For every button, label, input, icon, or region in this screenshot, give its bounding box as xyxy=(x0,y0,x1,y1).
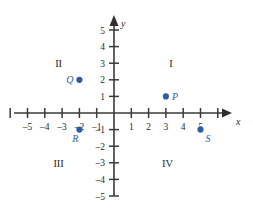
x-axis-tick-label: 2 xyxy=(146,122,151,132)
x-axis-tick-label: –4 xyxy=(39,122,50,132)
y-axis-tick-label: 1 xyxy=(100,92,105,102)
x-axis-tick-label: 4 xyxy=(181,122,186,132)
y-axis-arrow-icon xyxy=(110,15,119,26)
x-axis-tick-label: –3 xyxy=(56,122,67,132)
x-axis-tick-label: –5 xyxy=(22,122,33,132)
y-axis-tick-label: –5 xyxy=(95,192,106,202)
quadrant-label-iii: III xyxy=(53,158,64,169)
coordinate-plane-figure: –5–4–3–2–112345 54321–1–2–3–4–5 IIIIIIIV… xyxy=(0,0,253,220)
x-axis-arrow-icon xyxy=(222,109,232,118)
y-axis-label: y xyxy=(120,18,126,29)
x-axis-label: x xyxy=(235,116,241,127)
data-point-p xyxy=(163,93,169,99)
data-point-label-p: P xyxy=(171,91,178,102)
data-point-label-q: Q xyxy=(66,74,74,85)
data-point-q xyxy=(76,77,82,83)
y-axis-tick-label: 4 xyxy=(100,42,105,52)
x-axis-tick-label: 3 xyxy=(164,122,169,132)
data-points-group: PQRS xyxy=(66,74,210,143)
quadrant-label-ii: II xyxy=(55,58,62,69)
quadrant-label-i: I xyxy=(169,58,173,69)
x-axis-tick-label: 1 xyxy=(129,122,134,132)
y-axis-tick-label: 2 xyxy=(100,75,105,85)
x-axis-tick-labels-group: –5–4–3–2–112345 xyxy=(22,122,203,132)
y-axis-tick-label: –3 xyxy=(95,158,106,168)
data-point-label-s: S xyxy=(206,133,211,144)
data-point-label-r: R xyxy=(71,133,78,144)
axes-group xyxy=(14,15,232,196)
y-axis-tick-label: –4 xyxy=(95,175,106,185)
data-point-s xyxy=(197,127,203,133)
y-axis-tick-label: 5 xyxy=(100,26,105,36)
y-axis-tick-label: –2 xyxy=(95,142,106,152)
coordinate-plane-svg: –5–4–3–2–112345 54321–1–2–3–4–5 IIIIIIIV… xyxy=(0,0,253,220)
quadrant-label-iv: IV xyxy=(162,158,173,169)
y-axis-tick-label: 3 xyxy=(100,59,105,69)
y-axis-tick-label: –1 xyxy=(95,125,106,135)
